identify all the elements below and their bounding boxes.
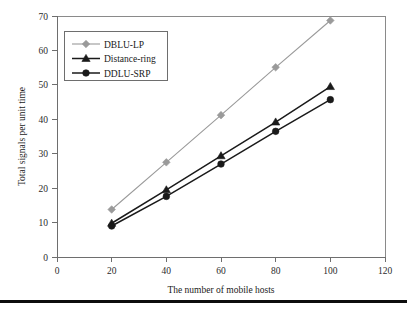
line-chart: 0 10 20 30 40 50 60 70 0 20 40 60 80 100… bbox=[0, 0, 407, 311]
x-tick-label-100: 100 bbox=[323, 266, 338, 276]
y-axis-title: Total signals per unit time bbox=[17, 87, 27, 186]
x-tick-label-40: 40 bbox=[162, 266, 172, 276]
y-tick-label-30: 30 bbox=[39, 149, 49, 159]
x-tick-label-20: 20 bbox=[107, 266, 117, 276]
data-point bbox=[163, 193, 170, 200]
y-tick-label-60: 60 bbox=[39, 46, 49, 56]
y-tick-label-20: 20 bbox=[39, 184, 49, 194]
y-tick-label-0: 0 bbox=[43, 253, 48, 263]
legend-marker bbox=[83, 70, 90, 77]
legend-label-ddlu-srp: DDLU-SRP bbox=[104, 69, 150, 79]
y-tick-label-50: 50 bbox=[39, 80, 49, 90]
data-point bbox=[272, 128, 279, 135]
y-tick-label-10: 10 bbox=[39, 218, 49, 228]
x-tick-label-0: 0 bbox=[55, 266, 60, 276]
data-point bbox=[108, 223, 115, 230]
y-tick-label-70: 70 bbox=[39, 12, 49, 22]
x-tick-label-120: 120 bbox=[378, 266, 393, 276]
data-point bbox=[327, 96, 334, 103]
y-tick-label-40: 40 bbox=[39, 115, 49, 125]
legend: DBLU-LP Distance-ring DDLU-SRP bbox=[64, 31, 167, 80]
chart-background bbox=[0, 0, 407, 311]
x-axis-title: The number of mobile hosts bbox=[167, 285, 274, 295]
x-tick-label-80: 80 bbox=[271, 266, 281, 276]
bottom-divider bbox=[0, 300, 407, 303]
legend-label-distance-ring: Distance-ring bbox=[104, 54, 156, 64]
x-tick-label-60: 60 bbox=[216, 266, 226, 276]
data-point bbox=[218, 161, 225, 168]
figure-container: 0 10 20 30 40 50 60 70 0 20 40 60 80 100… bbox=[0, 0, 407, 311]
legend-label-dblu-lp: DBLU-LP bbox=[104, 40, 144, 50]
